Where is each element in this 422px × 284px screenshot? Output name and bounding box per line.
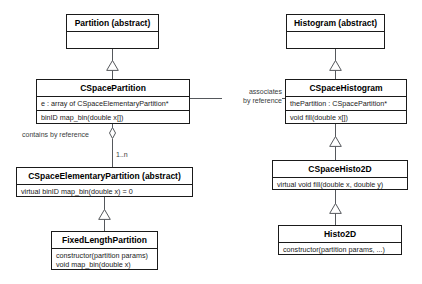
class-members-histogram [287,32,384,45]
class-members-partition [67,32,158,45]
uml-class-diagram: associates by reference contains by refe… [0,0,422,284]
contains-by-reference-label: contains by reference [22,131,89,140]
generalization-line-histo2d-lower [335,213,336,225]
class-operations-cspace-histo2d: virtual void fill(double x, double y) [273,178,407,191]
class-attributes-cspace-histogram: thePartition : CSpacePartition* [286,97,406,111]
class-operations-histo2d: constructor(partition params, ...) [279,243,401,256]
aggregation-line-elementary [112,139,113,168]
attribute-line: thePartition : CSpacePartition* [290,99,402,108]
class-box-histo2d[interactable]: Histo2D constructor(partition params, ..… [278,225,402,255]
class-operations-cspace-partition: binID map_bin(double x[]) [37,111,189,124]
generalization-line-histogram-lower [335,70,336,79]
operation-line: void map_bin(double x) [56,260,153,269]
operation-line: binID map_bin(double x[]) [41,113,185,122]
operation-line: virtual void fill(double x, double y) [277,180,403,189]
class-name-cspace-histogram: CSpaceHistogram [286,80,406,97]
class-box-cspace-histogram[interactable]: CSpaceHistogram thePartition : CSpacePar… [285,79,407,124]
generalization-line-elementary-lower [104,219,105,231]
association-label: associates by reference [222,88,282,105]
multiplicity-label: 1..n [116,151,128,160]
operation-line: void fill(double x[]) [290,113,402,122]
class-box-partition[interactable]: Partition (abstract) [66,14,159,49]
operation-line: constructor(partition params, ...) [283,245,397,254]
inheritance-triangle-cspacehisto2d [329,136,342,146]
aggregation-diamond [109,127,116,138]
operation-line: constructor(partition params) [56,251,153,260]
class-name-partition: Partition (abstract) [67,15,158,32]
class-name-cspace-partition: CSpacePartition [37,80,189,97]
class-operations-fixed-length-partition: constructor(partition params) void map_b… [52,249,157,271]
inheritance-triangle-histo2d [329,203,342,213]
inheritance-triangle-elementary [98,209,111,219]
class-name-histogram: Histogram (abstract) [287,15,384,32]
generalization-line-histogram2d [335,123,336,137]
class-name-histo2d: Histo2D [279,226,401,243]
association-label-line2: by reference [222,97,282,106]
class-box-cspace-elementary-partition[interactable]: CSpaceElementaryPartition (abstract) vir… [16,167,193,197]
class-box-histogram[interactable]: Histogram (abstract) [286,14,385,49]
class-operations-cspace-elementary-partition: virtual binID map_bin(double x) = 0 [17,185,192,198]
class-box-cspace-partition[interactable]: CSpacePartition e : array of CSpaceEleme… [36,79,190,124]
class-box-cspace-histo2d[interactable]: CSpaceHisto2D virtual void fill(double x… [272,160,408,190]
class-box-fixed-length-partition[interactable]: FixedLengthPartition constructor(partiti… [51,231,158,270]
class-name-fixed-length-partition: FixedLengthPartition [52,232,157,249]
generalization-line-elementary [104,196,105,210]
inheritance-triangle-histogram [329,60,342,70]
attribute-line: e : array of CSpaceElementaryPartition* [41,99,185,108]
inheritance-triangle-partition [106,60,119,70]
class-name-cspace-histo2d: CSpaceHisto2D [273,161,407,178]
association-label-line1: associates [222,88,282,97]
operation-line: virtual binID map_bin(double x) = 0 [21,187,188,196]
class-name-cspace-elementary-partition: CSpaceElementaryPartition (abstract) [17,168,192,185]
generalization-line-partition-lower [112,70,113,79]
generalization-line-histo2d [335,190,336,204]
class-operations-cspace-histogram: void fill(double x[]) [286,111,406,124]
generalization-line-histogram2d-lower [335,146,336,161]
class-attributes-cspace-partition: e : array of CSpaceElementaryPartition* [37,97,189,111]
